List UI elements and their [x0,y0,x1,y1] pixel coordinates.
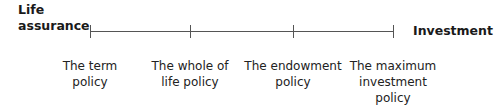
spectrum-axis-line [90,31,393,32]
tick-maximum-investment-policy [393,25,394,38]
term-policy-label: The term policy [35,58,145,90]
maximum-investment-policy-label: The maximum investment policy [338,58,448,106]
tick-term-policy [90,25,91,38]
tick-endowment-policy [293,25,294,38]
whole-of-life-policy-label: The whole of life policy [135,58,245,90]
endowment-policy-label: The endowment policy [238,58,348,90]
investment-label: Investment [413,23,493,39]
tick-whole-of-life-policy [190,25,191,38]
life-assurance-label: Life assurance [18,2,90,34]
